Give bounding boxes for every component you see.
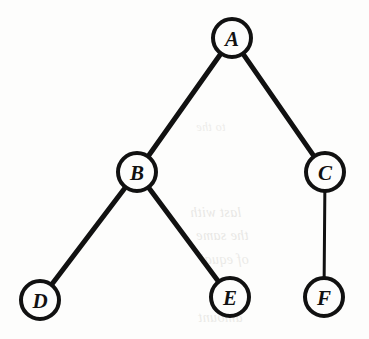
- tree-edge-b-d: [52, 188, 125, 284]
- node-label-f: F: [316, 286, 331, 310]
- tree-node-b[interactable]: B: [118, 153, 156, 191]
- tree-edge-a-b: [149, 54, 221, 155]
- tree-node-e[interactable]: E: [211, 278, 249, 316]
- tree-edge-a-c: [243, 54, 313, 155]
- tree-node-a[interactable]: A: [213, 19, 251, 57]
- tree-diagram-figure: to thelast withthe sameof equalamount AB…: [0, 0, 369, 339]
- node-label-c: C: [318, 161, 333, 185]
- node-label-b: B: [129, 161, 144, 185]
- tree-edge-b-e: [149, 188, 218, 281]
- node-label-a: A: [223, 27, 239, 51]
- binary-tree-svg: ABCDEF: [0, 0, 369, 339]
- tree-edge-c-f: [324, 192, 325, 277]
- tree-node-c[interactable]: C: [306, 153, 344, 191]
- node-label-e: E: [222, 286, 237, 310]
- node-label-d: D: [31, 289, 47, 313]
- tree-node-f[interactable]: F: [305, 278, 343, 316]
- node-layer: ABCDEF: [21, 19, 344, 319]
- edge-layer: [52, 54, 325, 284]
- tree-node-d[interactable]: D: [21, 281, 59, 319]
